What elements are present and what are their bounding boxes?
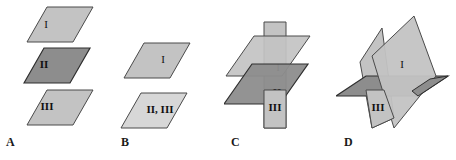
panel-c: I II III C — [224, 0, 336, 160]
plane-I-label: I — [161, 53, 165, 65]
plane-III-shape — [27, 90, 93, 125]
plane-III-label: III — [269, 101, 282, 113]
panel-d-caption: D — [344, 136, 353, 148]
panel-c-caption: C — [231, 136, 240, 148]
plane-II-shape — [24, 48, 90, 83]
plane-I-shape — [27, 7, 93, 42]
plane-I-label: I — [44, 18, 48, 30]
panel-a-diagram: I II III — [0, 0, 112, 160]
plane-I-label: I — [400, 58, 404, 70]
panel-c-diagram: I II III — [224, 0, 336, 160]
plane-II-III-label: II, III — [147, 103, 174, 115]
plane-I-shape — [124, 43, 190, 78]
plane-III-label: III — [41, 100, 54, 112]
panel-d-diagram: II I III — [336, 0, 456, 160]
panel-b-caption: B — [121, 136, 129, 148]
panel-b: I II, III B — [112, 0, 224, 160]
plane-II-label: II — [40, 58, 49, 70]
panel-a-caption: A — [6, 136, 15, 148]
panel-a: I II III A — [0, 0, 112, 160]
figure-root: I II III A I II, III B I — [0, 0, 456, 160]
panel-d: II I III D — [336, 0, 456, 160]
plane-III-label: III — [372, 101, 385, 113]
